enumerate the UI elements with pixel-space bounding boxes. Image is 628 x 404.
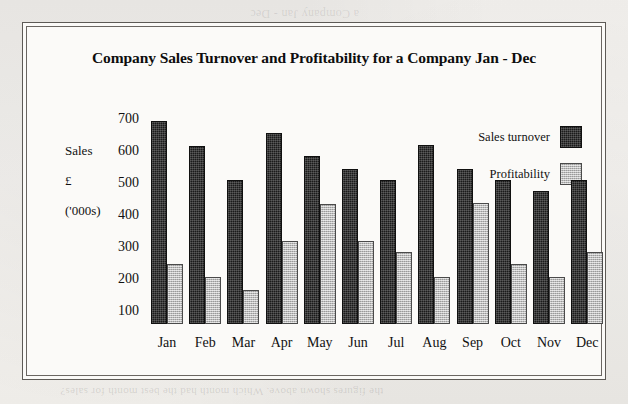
bar-nov-sales-turnover xyxy=(533,191,549,324)
bar-jan-sales-turnover xyxy=(151,121,167,324)
bar-may-profitability xyxy=(320,204,336,324)
bar-sep-sales-turnover xyxy=(457,169,473,324)
bar-jul-sales-turnover xyxy=(380,180,396,324)
bar-jun-sales-turnover xyxy=(342,169,358,324)
bar-feb-sales-turnover xyxy=(189,146,205,324)
y-axis-tick-100: 100 xyxy=(101,304,139,318)
bar-aug-profitability xyxy=(434,277,450,324)
bar-nov-profitability xyxy=(549,277,565,324)
bar-aug-sales-turnover xyxy=(418,145,434,324)
bar-feb-profitability xyxy=(205,277,221,324)
y-axis-tick-400: 400 xyxy=(101,208,139,222)
bleed-through-bottom: the figures shown above. Which month had… xyxy=(60,386,383,398)
chart-frame: Company Sales Turnover and Profitability… xyxy=(22,22,606,380)
y-axis-tick-500: 500 xyxy=(101,176,139,190)
y-axis-tick-700: 700 xyxy=(101,112,139,126)
bar-apr-profitability xyxy=(282,241,298,324)
bar-apr-sales-turnover xyxy=(266,133,282,324)
legend-label-sales-turnover: Sales turnover xyxy=(458,130,550,145)
legend-item-sales-turnover: Sales turnover xyxy=(458,126,582,148)
bar-mar-sales-turnover xyxy=(227,180,243,324)
y-axis-tick-200: 200 xyxy=(101,272,139,286)
legend-swatch-sales-turnover xyxy=(560,126,582,148)
bar-dec-profitability xyxy=(587,252,603,324)
bar-sep-profitability xyxy=(473,203,489,324)
bar-jan-profitability xyxy=(167,264,183,324)
bleed-through-top: a Company Jan - Dec xyxy=(250,6,359,21)
bar-may-sales-turnover xyxy=(304,156,320,324)
bar-jun-profitability xyxy=(358,241,374,324)
y-axis-tick-600: 600 xyxy=(101,144,139,158)
bar-dec-sales-turnover xyxy=(571,180,587,324)
y-axis-tick-300: 300 xyxy=(101,240,139,254)
legend-item-profitability: Profitability xyxy=(458,163,582,185)
plot-area: 700600500400300200100JanFebMarAprMayJunJ… xyxy=(23,23,605,379)
x-axis-tick-dec: Dec xyxy=(565,336,609,350)
bar-jul-profitability xyxy=(396,252,412,324)
bar-oct-profitability xyxy=(511,264,527,324)
bar-mar-profitability xyxy=(243,290,259,324)
bar-oct-sales-turnover xyxy=(495,180,511,324)
